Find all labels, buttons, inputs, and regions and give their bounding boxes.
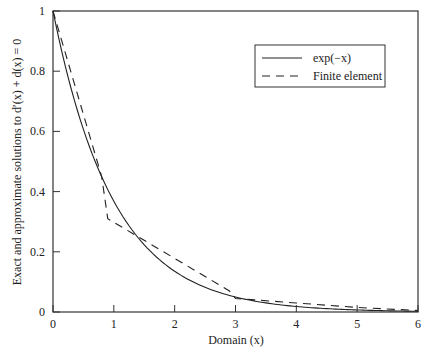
- y-tick-label: 0.4: [30, 185, 45, 199]
- legend-label-exp: exp(−x): [313, 51, 351, 65]
- legend-label-fe: Finite element: [313, 69, 383, 83]
- x-tick-label: 2: [172, 317, 178, 331]
- y-tick-label: 0.8: [30, 64, 45, 78]
- y-tick-label: 1: [39, 4, 45, 18]
- y-axis-label: Exact and approximate solutions to d′(x)…: [10, 39, 24, 285]
- y-tick-label: 0: [39, 305, 45, 319]
- x-tick-label: 4: [293, 317, 299, 331]
- y-tick-label: 0.6: [30, 124, 45, 138]
- x-tick-label: 6: [415, 317, 421, 331]
- x-axis-label: Domain (x): [208, 333, 264, 347]
- y-tick-label: 0.2: [30, 245, 45, 259]
- x-tick-label: 3: [233, 317, 239, 331]
- x-tick-label: 5: [354, 317, 360, 331]
- x-tick-label: 1: [111, 317, 117, 331]
- legend: exp(−x) Finite element: [255, 45, 385, 87]
- chart: 012345600.20.40.60.81 exp(−x) Finite ele…: [0, 0, 435, 358]
- x-tick-label: 0: [50, 317, 56, 331]
